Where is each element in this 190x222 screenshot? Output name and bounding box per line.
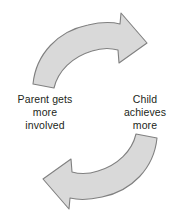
parent-label: Parent gets more involved xyxy=(2,93,88,132)
bottom-arrow-shape xyxy=(43,134,157,209)
parent-label-line-3: involved xyxy=(2,119,88,132)
parent-label-line-1: Parent gets xyxy=(2,93,88,106)
child-label: Child achieves more xyxy=(104,93,186,132)
bottom-arrow xyxy=(43,134,157,209)
child-label-line-3: more xyxy=(104,119,186,132)
child-label-line-1: Child xyxy=(104,93,186,106)
child-label-line-2: achieves xyxy=(104,106,186,119)
parent-label-line-2: more xyxy=(2,106,88,119)
top-arrow xyxy=(33,13,147,88)
cycle-diagram: Parent gets more involved Child achieves… xyxy=(0,0,190,222)
top-arrow-shape xyxy=(33,13,147,88)
